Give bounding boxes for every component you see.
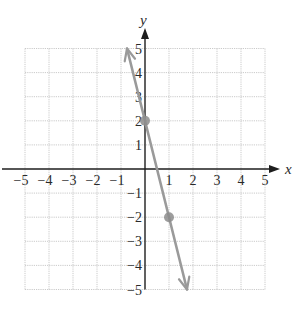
- y-tick-label: −4: [127, 258, 142, 273]
- y-tick-label: −2: [127, 210, 142, 225]
- x-tick-label: −4: [38, 173, 53, 188]
- x-tick-label: −1: [110, 173, 125, 188]
- y-tick-label: −5: [127, 283, 142, 298]
- x-axis-arrow-icon: [269, 165, 280, 173]
- y-axis-label: y: [138, 12, 147, 28]
- x-tick-label: 2: [190, 173, 197, 188]
- y-tick-label: 4: [135, 66, 142, 81]
- x-tick-label: −3: [62, 173, 77, 188]
- y-tick-label: 1: [135, 138, 142, 153]
- x-tick-label: −2: [86, 173, 101, 188]
- x-tick-label: 5: [262, 173, 269, 188]
- y-tick-label: −1: [127, 186, 142, 201]
- y-tick-label: 5: [135, 42, 142, 57]
- x-tick-label: 3: [214, 173, 221, 188]
- x-tick-label: 1: [166, 173, 173, 188]
- coordinate-plane: −5−4−3−2−112345−5−4−3−2−112345 x y: [0, 0, 304, 309]
- x-tick-label: −5: [14, 173, 29, 188]
- y-axis-arrow-icon: [141, 28, 149, 39]
- y-tick-label: −3: [127, 234, 142, 249]
- x-axis-label: x: [284, 161, 292, 177]
- data-point: [140, 116, 150, 126]
- data-point: [164, 212, 174, 222]
- x-tick-label: 4: [238, 173, 245, 188]
